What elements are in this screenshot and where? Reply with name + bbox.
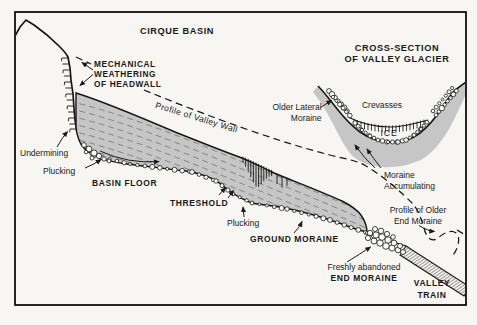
cirque-basin-title: CIRQUE BASIN bbox=[140, 26, 214, 37]
valley-train-label: VALLEY TRAIN bbox=[414, 278, 451, 301]
moraine-accumulating-label: Moraine Accumulating bbox=[384, 170, 435, 192]
freshly-abandoned-label: Freshly abandoned END MORAINE bbox=[328, 262, 401, 284]
profile-older-end-moraine-label: Profile of Older End Moraine bbox=[390, 205, 447, 226]
older-lateral-moraine-label: Older Lateral Moraine bbox=[272, 102, 321, 123]
ice-label: ICE bbox=[380, 128, 397, 138]
crevasses-label: Crevasses bbox=[362, 100, 402, 110]
cross-section-title: CROSS-SECTION OF VALLEY GLACIER bbox=[345, 43, 450, 64]
glacier-diagram: CIRQUE BASIN CROSS-SECTION OF VALLEY GLA… bbox=[0, 0, 477, 325]
undermining-label: Undermining bbox=[20, 148, 68, 158]
plucking-left-label: Plucking bbox=[43, 166, 75, 176]
ground-moraine-label: GROUND MORAINE bbox=[250, 234, 339, 244]
basin-floor-label: BASIN FLOOR bbox=[92, 178, 157, 188]
mechanical-weathering-label: MECHANICAL WEATHERING OF HEADWALL bbox=[94, 60, 161, 89]
threshold-label: THRESHOLD bbox=[170, 198, 228, 208]
cross-section-title-line2: OF VALLEY GLACIER bbox=[345, 54, 450, 65]
cross-section-title-line1: CROSS-SECTION bbox=[345, 43, 450, 54]
plucking-right-label: Plucking bbox=[227, 218, 259, 228]
